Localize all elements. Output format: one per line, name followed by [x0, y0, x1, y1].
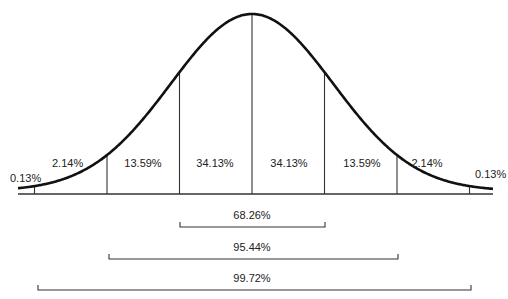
segment-label-left-center: 34.13% — [196, 157, 234, 169]
range-bracket-1sigma — [180, 222, 325, 227]
segment-label-left-2: 2.14% — [52, 157, 83, 169]
segment-label-right-center: 34.13% — [270, 157, 308, 169]
range-label-1sigma: 68.26% — [233, 209, 271, 221]
segment-label-right-tail: 0.13% — [475, 168, 506, 180]
segment-label-right-1: 13.59% — [343, 157, 381, 169]
normal-distribution-chart: 0.13% 2.14% 13.59% 34.13% 34.13% 13.59% … — [0, 0, 508, 299]
sigma-division-lines — [35, 14, 470, 194]
range-label-3sigma: 99.72% — [233, 272, 271, 284]
segment-label-left-1: 13.59% — [124, 157, 162, 169]
range-bracket-3sigma — [38, 285, 471, 290]
range-label-2sigma: 95.44% — [233, 241, 271, 253]
segment-label-right-2: 2.14% — [411, 157, 442, 169]
range-bracket-2sigma — [109, 254, 398, 259]
segment-label-left-tail: 0.13% — [10, 172, 41, 184]
